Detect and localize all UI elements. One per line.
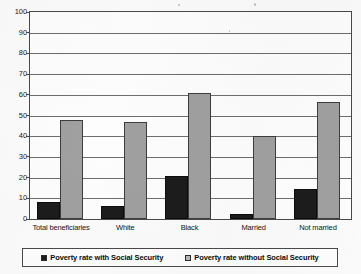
bar-white-without-social-security[interactable] xyxy=(124,122,147,219)
bar-group-not-married xyxy=(287,12,351,219)
legend-swatch-dark-icon xyxy=(41,255,47,261)
y-tick-label: 10 xyxy=(1,194,27,202)
legend-item-without-social-security[interactable]: Poverty rate without Social Security xyxy=(185,253,318,262)
y-tick-label: 90 xyxy=(1,29,27,37)
legend-label: Poverty rate with Social Security xyxy=(50,253,163,262)
bar-not-married-with-social-security[interactable] xyxy=(294,189,317,219)
legend-item-with-social-security[interactable]: Poverty rate with Social Security xyxy=(41,253,163,262)
bar-black-without-social-security[interactable] xyxy=(188,93,211,219)
legend-swatch-light-icon xyxy=(185,255,191,261)
y-tick-label: 20 xyxy=(1,174,27,182)
y-tick-label: 30 xyxy=(1,153,27,161)
bar-group-white xyxy=(94,12,158,219)
bar-not-married-without-social-security[interactable] xyxy=(317,102,340,219)
x-tick-label-not-married: Not married xyxy=(286,223,350,232)
y-tick-label: 60 xyxy=(1,91,27,99)
bar-total-beneficiaries-with-social-security[interactable] xyxy=(37,202,60,219)
bar-total-beneficiaries-without-social-security[interactable] xyxy=(60,120,83,219)
bar-group-black xyxy=(158,12,222,219)
bar-group-total-beneficiaries xyxy=(30,12,94,219)
y-tick-label: 40 xyxy=(1,132,27,140)
x-tick-label-white: White xyxy=(93,223,157,232)
bar-married-with-social-security[interactable] xyxy=(230,214,253,219)
y-tick-label: 80 xyxy=(1,49,27,57)
bars-layer xyxy=(30,12,351,219)
y-tick-label: 0 xyxy=(1,215,27,223)
x-tick-label-black: Black xyxy=(157,223,221,232)
x-axis: Total beneficiaries White Black Married … xyxy=(29,223,352,237)
scan-speck xyxy=(254,3,256,6)
x-tick-label-total-beneficiaries: Total beneficiaries xyxy=(29,223,93,232)
bar-black-with-social-security[interactable] xyxy=(165,176,188,220)
legend: Poverty rate with Social Security Povert… xyxy=(22,248,338,267)
y-tick-label: 70 xyxy=(1,70,27,78)
legend-label: Poverty rate without Social Security xyxy=(194,253,318,262)
bar-group-married xyxy=(223,12,287,219)
y-tick-label: 100 xyxy=(1,8,27,16)
scan-speck xyxy=(178,4,180,6)
x-tick-label-married: Married xyxy=(222,223,286,232)
y-tick-label: 50 xyxy=(1,112,27,120)
bar-married-without-social-security[interactable] xyxy=(253,136,276,219)
poverty-rate-bar-chart: 100 90 80 70 60 50 40 30 20 10 0 xyxy=(0,0,361,274)
bar-white-with-social-security[interactable] xyxy=(101,206,124,220)
